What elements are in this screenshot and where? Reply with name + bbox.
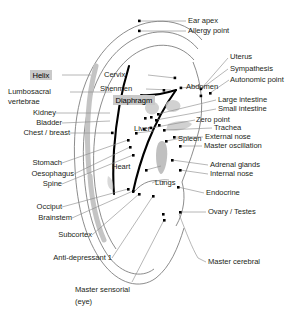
leader-endocrine	[178, 187, 204, 193]
point-endocrine	[177, 186, 180, 189]
point-master-sensorial	[163, 219, 166, 222]
point-chest-breast	[111, 132, 114, 135]
label-vertebrae: vertebrae	[8, 97, 40, 106]
leader-anti-depressant	[112, 196, 153, 258]
label-trachea: Trachea	[214, 123, 241, 132]
point-small-intestine	[155, 119, 158, 122]
point-internal-nose	[179, 169, 182, 172]
label-small-intestine: Small intestine	[218, 104, 267, 113]
leader-cervix	[148, 75, 175, 78]
leader-internal-nose	[180, 170, 208, 174]
ear-chart-figure: Ear apex Allergy point Uterus Sympathesi…	[0, 0, 302, 319]
label-helix-text: Helix	[30, 70, 52, 81]
helix-band-shading	[88, 66, 96, 172]
point-anti-depressant-1	[152, 195, 155, 198]
point-zero-point-b	[158, 124, 161, 127]
point-brainstem	[132, 190, 135, 193]
label-oesophagus: Oesophagus	[0, 169, 74, 178]
ear-outline-group	[74, 21, 202, 284]
label-adrenal-glands: Adrenal glands	[210, 160, 260, 169]
point-spine	[132, 154, 135, 157]
point-occiput	[127, 188, 130, 191]
label-anti-depressant-1: Anti-depressant 1	[0, 253, 112, 262]
point-heart	[145, 169, 148, 172]
label-diaphragm-text: Diaphragm	[113, 95, 155, 106]
point-allergy-point	[138, 30, 141, 33]
label-heart: Heart	[112, 162, 130, 171]
point-cervix	[174, 77, 177, 80]
label-allergy-point: Allergy point	[188, 26, 229, 35]
label-master-sensorial-eye: (eye)	[75, 297, 92, 306]
point-master-oscillation	[179, 145, 182, 148]
label-helix: Helix	[30, 70, 52, 79]
label-endocrine: Endocrine	[206, 188, 240, 197]
leader-brainstem	[72, 191, 133, 218]
point-external-nose	[173, 136, 176, 139]
point-kidney	[144, 117, 147, 120]
label-master-sensorial: Master sensorial	[75, 285, 130, 294]
point-large-intestine	[157, 113, 160, 116]
label-ear-apex: Ear apex	[188, 16, 218, 25]
label-bladder: Bladder	[0, 118, 62, 127]
point-master-cerebral	[162, 213, 165, 216]
label-large-intestine: Large intestine	[218, 95, 267, 104]
label-stomach: Stomach	[0, 158, 62, 167]
label-kidney: Kidney	[0, 108, 56, 117]
label-liver: Liver	[134, 124, 150, 133]
label-master-oscillation: Master oscillation	[204, 141, 262, 150]
point-bladder	[150, 116, 153, 119]
leader-shenmen	[146, 89, 171, 90]
point-shenmen	[163, 89, 166, 92]
label-ovary-testes: Ovary / Testes	[208, 207, 256, 216]
point-trachea	[163, 129, 166, 132]
point-abdomen	[180, 87, 183, 90]
label-occiput: Occiput	[0, 202, 62, 211]
label-internal-nose: Internal nose	[210, 169, 253, 178]
label-spine: Spine	[0, 179, 62, 188]
leader-lines-group	[56, 21, 229, 282]
label-spleen: Spleen	[178, 134, 201, 143]
point-adrenal-glands	[171, 159, 174, 162]
label-diaphragm: Diaphragm	[113, 95, 155, 104]
point-spleen	[165, 140, 168, 143]
point-ovary-testes	[179, 211, 182, 214]
point-ear-apex	[138, 20, 141, 23]
antitragus-shading	[156, 141, 167, 174]
point-sympathesis	[200, 95, 203, 98]
leader-master-cerebral	[179, 214, 206, 262]
point-oesophagus	[129, 146, 132, 149]
label-brainstem: Brainstem	[0, 213, 72, 222]
label-sympathesis: Sympathesis	[230, 64, 273, 73]
label-external-nose: External nose	[205, 132, 251, 141]
label-shenmen: Shenmen	[100, 84, 132, 93]
leader-subcortex	[92, 194, 139, 235]
label-lumbosacral: Lumbosacral	[8, 87, 51, 96]
label-cervix: Cervix	[104, 70, 125, 79]
point-subcortex	[138, 193, 141, 196]
label-master-cerebral: Master cerebral	[208, 257, 260, 266]
leader-stomach	[62, 140, 128, 163]
point-autonomic-point	[209, 92, 212, 95]
label-autonomic-point: Autonomic point	[230, 75, 284, 84]
label-uterus: Uterus	[230, 52, 252, 61]
label-chest-breast: Chest / breast	[0, 128, 70, 137]
point-stomach	[127, 139, 130, 142]
label-abdomen: Abdomen	[186, 82, 218, 91]
label-subcortex: Subcortex	[0, 230, 92, 239]
label-lungs: Lungs	[155, 178, 175, 187]
